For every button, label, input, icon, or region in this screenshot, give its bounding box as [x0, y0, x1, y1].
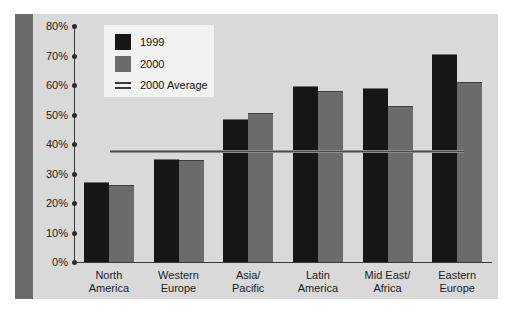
bar-2000-2	[248, 113, 273, 262]
legend-label-2000: 2000	[140, 59, 164, 70]
legend-item-2000: 2000	[115, 55, 164, 73]
average-reference-line	[110, 150, 464, 153]
black-square-swatch	[115, 34, 131, 50]
y-tick-label: 80%	[46, 21, 68, 32]
y-tick-label: 20%	[46, 198, 68, 209]
bar-2000-4	[388, 106, 413, 262]
category-label: Western Europe	[144, 269, 214, 295]
bar-2000-0	[109, 185, 134, 262]
y-tick-dot	[72, 231, 77, 236]
bar-1999-1	[154, 159, 179, 262]
y-tick-label: 0%	[52, 257, 68, 268]
y-tick-label: 60%	[46, 80, 68, 91]
y-axis-tick-labels: 80%70%60%50%40%30%20%10%0%	[26, 26, 68, 262]
bar-1999-3	[293, 86, 318, 262]
legend-label-1999: 1999	[140, 37, 164, 48]
y-tick-dot	[72, 54, 77, 59]
y-tick-label: 50%	[46, 110, 68, 121]
y-tick-dot	[72, 113, 77, 118]
category-label: Asia/ Pacific	[213, 269, 283, 295]
y-tick-label: 30%	[46, 169, 68, 180]
bar-2000-1	[179, 160, 204, 262]
y-tick-dot	[72, 24, 77, 29]
bar-2000-5	[457, 82, 482, 262]
chart-figure: 80%70%60%50%40%30%20%10%0% North America…	[0, 0, 509, 314]
y-tick-label: 10%	[46, 228, 68, 239]
gray-square-swatch	[115, 56, 131, 72]
y-tick-dot	[72, 142, 77, 147]
legend-item-average: 2000 Average	[115, 76, 208, 94]
y-tick-dot	[72, 201, 77, 206]
category-label: Eastern Europe	[422, 269, 492, 295]
x-axis-line	[74, 262, 492, 263]
y-tick-label: 40%	[46, 139, 68, 150]
y-tick-dot	[72, 83, 77, 88]
y-tick-dot	[72, 172, 77, 177]
category-label: Mid East/ Africa	[353, 269, 423, 295]
legend-label-average: 2000 Average	[140, 80, 208, 91]
bar-1999-2	[223, 119, 248, 262]
average-line-swatch	[115, 82, 131, 89]
category-label: North America	[74, 269, 144, 295]
category-label: Latin America	[283, 269, 353, 295]
y-tick-label: 70%	[46, 51, 68, 62]
bar-1999-4	[363, 88, 388, 262]
bar-1999-0	[84, 182, 109, 262]
chart-legend: 1999 2000 2000 Average	[104, 25, 214, 97]
legend-item-1999: 1999	[115, 33, 164, 51]
bar-1999-5	[432, 54, 457, 262]
bar-2000-3	[318, 91, 343, 262]
y-tick-dot	[72, 260, 77, 265]
